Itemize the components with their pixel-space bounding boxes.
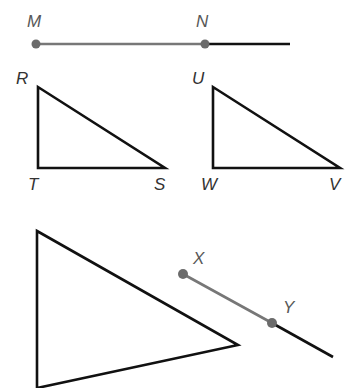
vertex-label-W: W <box>201 175 219 194</box>
triangle-RTS-group: R T S <box>16 69 166 194</box>
point-dot-N <box>201 40 210 49</box>
triangle-UWV-group: U W V <box>192 69 342 194</box>
point-label-M: M <box>27 12 42 31</box>
vertex-label-V: V <box>329 175 342 194</box>
segment-XY-gray <box>183 274 272 323</box>
vertex-label-R: R <box>16 69 28 88</box>
point-label-Y: Y <box>283 298 296 317</box>
segment-Y-to-arrow-black <box>272 323 333 357</box>
point-label-X: X <box>192 249 205 268</box>
point-dot-X <box>178 269 188 279</box>
ray-XY-group: X Y <box>178 249 347 365</box>
point-dot-M <box>32 40 41 49</box>
triangle-large-group <box>37 231 238 388</box>
geometry-figure-svg: M N R T S U W V X Y <box>0 0 361 388</box>
triangle-RTS-outline <box>38 87 165 168</box>
geometry-figure-canvas: M N R T S U W V X Y <box>0 0 361 388</box>
vertex-label-T: T <box>28 175 40 194</box>
ray-MN-group: M N <box>27 12 302 49</box>
vertex-label-S: S <box>154 175 166 194</box>
triangle-UWV-outline <box>213 87 340 168</box>
vertex-label-U: U <box>192 69 205 88</box>
triangle-large-outline <box>37 231 238 388</box>
point-label-N: N <box>196 12 209 31</box>
point-dot-Y <box>267 318 277 328</box>
